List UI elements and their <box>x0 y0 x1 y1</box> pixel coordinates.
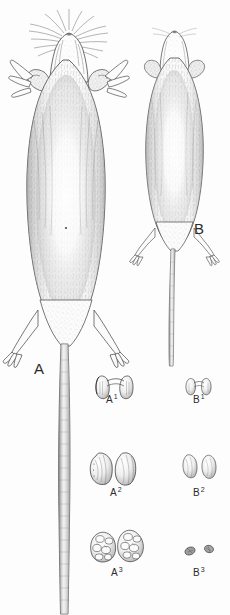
dentition-label-a3-sup: 3 <box>119 566 123 573</box>
dentition-label-b1-sup: 1 <box>201 393 205 400</box>
dentition-label-a1: A1 <box>106 393 118 405</box>
dentition-label-a1-base: A <box>106 394 113 405</box>
dentition-label-b2: B2 <box>193 486 205 498</box>
specimen-a-molar-left <box>91 532 116 562</box>
illustration-plate: A B A1 B1 A2 B2 A3 B3 <box>0 0 230 615</box>
plate-canvas <box>0 0 230 615</box>
dentition-label-a3: A3 <box>111 566 123 578</box>
dentition-label-b3-sup: 3 <box>201 566 205 573</box>
dentition-label-a3-base: A <box>111 567 118 578</box>
specimen-a-premolar-right <box>115 453 136 485</box>
specimen-a-premolar-left <box>90 453 112 485</box>
dentition-label-a2-base: A <box>110 487 117 498</box>
dentition-label-b3-base: B <box>193 567 200 578</box>
dentition-label-a2: A2 <box>110 486 122 498</box>
dentition-label-a1-sup: 1 <box>114 393 118 400</box>
figure-label-b: B <box>194 220 205 237</box>
dentition-label-a2-sup: 2 <box>118 486 122 493</box>
specimen-b-premolar-right <box>202 455 216 478</box>
figure-label-a: A <box>34 360 45 377</box>
specimen-a-tail-annuli <box>60 360 70 600</box>
dentition-label-b3: B3 <box>193 566 205 578</box>
dentition-label-b1-base: B <box>193 394 200 405</box>
dentition-label-b1: B1 <box>193 393 205 405</box>
dentition-label-b2-base: B <box>193 487 200 498</box>
dentition-label-b2-sup: 2 <box>201 486 205 493</box>
